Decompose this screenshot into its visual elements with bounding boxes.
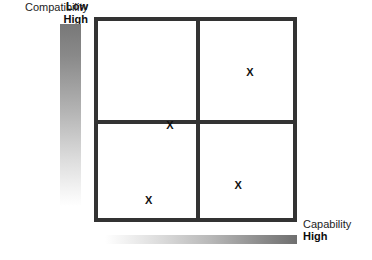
matrix-frame: X X X X <box>94 17 297 222</box>
data-mark-bottom-left[interactable]: X <box>145 195 153 206</box>
x-axis-high-label: High <box>303 231 372 243</box>
y-axis-caption: Compatibility High <box>0 2 88 26</box>
quadrant-bottom-right[interactable] <box>200 124 293 218</box>
data-mark-top-left[interactable]: X <box>166 120 174 131</box>
x-axis-gradient-bar <box>105 235 297 244</box>
x-axis-caption: Capability High <box>303 219 372 243</box>
data-mark-top-right[interactable]: X <box>246 67 254 78</box>
data-mark-bottom-right[interactable]: X <box>235 179 243 190</box>
quadrant-matrix-figure: Compatibility High Low Capability High X… <box>0 0 372 260</box>
y-axis-gradient-bar <box>60 24 81 206</box>
quadrant-top-left[interactable] <box>98 21 196 120</box>
matrix-divider-horizontal <box>98 120 293 124</box>
